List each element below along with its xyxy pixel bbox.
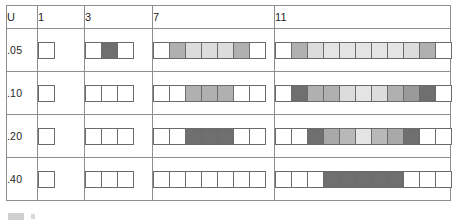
- strip-len-11: [275, 42, 452, 59]
- strip-box-4: [201, 128, 218, 145]
- strip-box-7: [249, 171, 266, 188]
- strip-box-3: [117, 85, 134, 102]
- strip-box-1: [153, 85, 170, 102]
- strip-box-2: [291, 85, 308, 102]
- strip-cell-r1-c7: [153, 29, 275, 72]
- strip-box-5: [339, 128, 356, 145]
- strip-box-4: [323, 42, 340, 59]
- table-row: .10: [7, 72, 451, 115]
- header-col-11: 11: [275, 6, 451, 29]
- strip-len-7: [153, 171, 266, 188]
- strip-box-1: [85, 85, 102, 102]
- strip-len-1: [38, 128, 55, 145]
- strip-box-4: [323, 128, 340, 145]
- row-label-3: .20: [7, 115, 38, 158]
- strip-box-1: [38, 128, 55, 145]
- strip-box-3: [185, 128, 202, 145]
- strip-cell-r1-c11: [275, 29, 451, 72]
- strip-box-7: [371, 128, 388, 145]
- strip-box-3: [185, 85, 202, 102]
- strip-cell-r4-c11: [275, 158, 451, 201]
- strip-cell-r3-c11: [275, 115, 451, 158]
- strip-cell-r3-c3: [85, 115, 153, 158]
- strip-box-2: [101, 128, 118, 145]
- strip-box-1: [38, 85, 55, 102]
- strip-box-1: [85, 171, 102, 188]
- header-col-7: 7: [153, 6, 275, 29]
- strip-box-8: [387, 42, 404, 59]
- strip-box-10: [419, 42, 436, 59]
- strip-box-5: [217, 85, 234, 102]
- strip-box-1: [275, 128, 292, 145]
- strip-box-6: [355, 42, 372, 59]
- strip-box-4: [201, 85, 218, 102]
- strip-box-11: [435, 85, 452, 102]
- strip-box-2: [101, 85, 118, 102]
- strip-box-5: [217, 42, 234, 59]
- strip-box-6: [355, 171, 372, 188]
- strip-len-11: [275, 171, 452, 188]
- strip-box-9: [403, 128, 420, 145]
- strip-box-2: [169, 42, 186, 59]
- table-row: .40: [7, 158, 451, 201]
- strip-len-1: [38, 171, 55, 188]
- strip-box-2: [169, 128, 186, 145]
- strip-box-3: [185, 171, 202, 188]
- row-label-2: .10: [7, 72, 38, 115]
- strip-cell-r4-c1: [38, 158, 85, 201]
- strip-len-3: [85, 128, 134, 145]
- strip-box-11: [435, 42, 452, 59]
- table-row: .20: [7, 115, 451, 158]
- strip-box-11: [435, 171, 452, 188]
- strip-len-7: [153, 42, 266, 59]
- strip-box-5: [217, 128, 234, 145]
- strip-cell-r2-c1: [38, 72, 85, 115]
- strip-box-3: [117, 128, 134, 145]
- strip-box-10: [419, 171, 436, 188]
- strip-box-5: [339, 85, 356, 102]
- strip-box-5: [217, 171, 234, 188]
- strip-box-8: [387, 85, 404, 102]
- strip-box-3: [185, 42, 202, 59]
- strip-cell-r4-c7: [153, 158, 275, 201]
- strip-box-1: [275, 85, 292, 102]
- strip-box-7: [249, 128, 266, 145]
- strip-cell-r2-c7: [153, 72, 275, 115]
- strip-box-4: [201, 42, 218, 59]
- strip-box-6: [355, 85, 372, 102]
- table-row: .05: [7, 29, 451, 72]
- strip-box-5: [339, 42, 356, 59]
- strip-box-2: [101, 42, 118, 59]
- strip-box-10: [419, 128, 436, 145]
- strip-box-6: [233, 85, 250, 102]
- strip-len-1: [38, 42, 55, 59]
- strip-box-9: [403, 171, 420, 188]
- strip-box-6: [233, 171, 250, 188]
- strip-box-1: [275, 42, 292, 59]
- strip-box-2: [291, 42, 308, 59]
- strip-box-7: [249, 42, 266, 59]
- strip-box-1: [153, 171, 170, 188]
- strip-box-2: [291, 171, 308, 188]
- strip-cell-r1-c3: [85, 29, 153, 72]
- row-label-1: .05: [7, 29, 38, 72]
- strip-box-3: [117, 171, 134, 188]
- strip-box-1: [38, 171, 55, 188]
- strip-box-3: [307, 42, 324, 59]
- strip-box-10: [419, 85, 436, 102]
- strip-box-3: [307, 171, 324, 188]
- strip-box-1: [153, 42, 170, 59]
- strip-box-8: [387, 128, 404, 145]
- strip-len-7: [153, 85, 266, 102]
- strip-cell-r3-c1: [38, 115, 85, 158]
- strip-len-3: [85, 42, 134, 59]
- strip-box-6: [233, 42, 250, 59]
- strip-box-6: [233, 128, 250, 145]
- strip-box-2: [169, 171, 186, 188]
- strip-box-6: [355, 128, 372, 145]
- strip-len-1: [38, 85, 55, 102]
- strip-len-7: [153, 128, 266, 145]
- shading-grid-table: U 1 3 7 11 .05.10.20.40: [6, 5, 451, 201]
- strip-box-1: [275, 171, 292, 188]
- strip-cell-r2-c11: [275, 72, 451, 115]
